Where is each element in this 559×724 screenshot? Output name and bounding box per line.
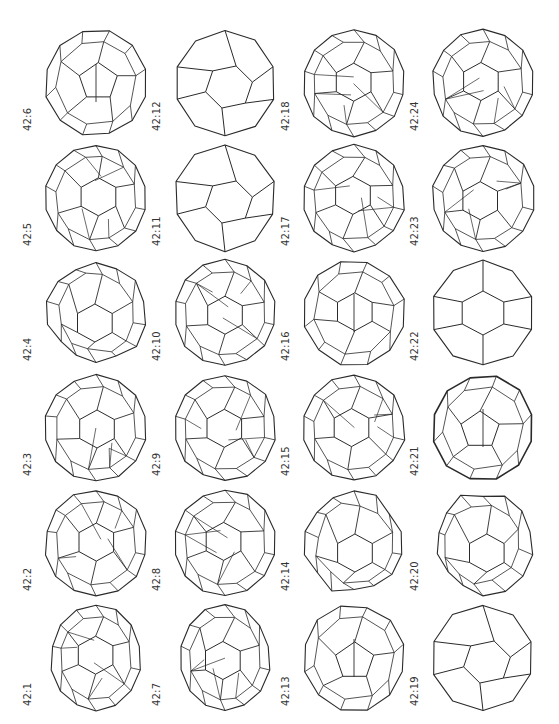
cage-edge — [315, 437, 335, 439]
cage-edge — [108, 539, 127, 570]
cage-edge — [480, 683, 483, 711]
cage-edge — [203, 496, 213, 503]
cage-edge — [194, 516, 207, 532]
polyhedron-wireframe — [296, 257, 412, 371]
cage-edge — [487, 505, 492, 534]
cage-edge — [343, 214, 353, 238]
polyhedron-label: 42:5 — [22, 223, 33, 246]
cage-edge — [186, 438, 207, 439]
cage-edge — [246, 440, 254, 458]
cage-edge — [454, 168, 463, 191]
cage-edge — [185, 326, 187, 347]
cage-edge — [512, 228, 523, 231]
cage-edge — [115, 511, 122, 529]
cage-edge — [108, 219, 109, 238]
polyhedron-panel: 42:14 — [280, 487, 408, 602]
cage-edge — [83, 124, 87, 135]
cage-edge — [68, 632, 94, 640]
cage-edge — [264, 394, 266, 416]
cage-edge — [195, 400, 207, 419]
polyhedron-panel: 42:17 — [280, 142, 408, 257]
polyhedron-label: 42:15 — [280, 446, 291, 476]
cage-edge — [88, 428, 96, 469]
cage-edge — [439, 533, 445, 535]
cage-edge — [125, 228, 136, 231]
cage-face — [464, 63, 499, 101]
cage-edge — [370, 185, 392, 186]
cage-edge — [318, 275, 319, 292]
cage-edge — [58, 206, 81, 213]
cage-edge — [65, 516, 79, 533]
polyhedron-panel: 42:1 — [22, 602, 150, 717]
cage-edge — [203, 265, 213, 273]
cage-face — [176, 145, 274, 252]
cage-edge — [355, 617, 363, 642]
cage-edge — [434, 642, 471, 646]
cage-edge — [185, 439, 186, 461]
cage-edge — [314, 165, 322, 172]
cage-edge — [126, 341, 136, 347]
cage-edge — [205, 610, 215, 618]
cage-edge — [503, 674, 530, 678]
cage-edge — [88, 678, 102, 699]
cage-edge — [176, 531, 186, 535]
cage-edge — [390, 332, 391, 351]
cage-edge — [129, 625, 131, 642]
cage-edge — [498, 210, 512, 228]
cage-face — [78, 636, 113, 674]
cage-edge — [236, 354, 247, 360]
cage-edge — [61, 62, 79, 76]
polyhedron-panel: 42:4 — [22, 257, 150, 372]
cage-edge — [218, 560, 224, 584]
cage-edge — [393, 50, 395, 71]
cage-edge — [74, 150, 86, 157]
cage-edge — [354, 491, 360, 506]
cage-edge — [326, 515, 338, 544]
cage-edge — [191, 660, 204, 671]
cage-edge — [314, 50, 323, 56]
cage-edge — [353, 157, 365, 176]
polyhedron-panel: 42:3 — [22, 372, 150, 487]
cage-edge — [56, 395, 67, 399]
cage-edge — [88, 674, 95, 699]
cage-edge — [352, 386, 361, 408]
polyhedron-wireframe — [167, 602, 283, 716]
cage-edge — [315, 92, 337, 94]
cage-face — [185, 502, 264, 584]
cage-face — [56, 156, 136, 239]
cage-face — [176, 259, 275, 365]
cage-edge — [264, 510, 265, 531]
polyhedron-label: 42:12 — [151, 101, 162, 131]
cage-edge — [323, 676, 343, 685]
cage-edge — [88, 342, 95, 349]
cage-edge — [237, 583, 247, 590]
cage-edge — [57, 213, 58, 230]
cage-face — [338, 293, 373, 331]
cage-face — [304, 491, 401, 591]
cage-edge — [354, 84, 384, 113]
cage-edge — [61, 647, 77, 648]
cage-edge — [444, 50, 452, 56]
cage-edge — [363, 608, 367, 617]
cage-edge — [444, 165, 455, 168]
cage-edge — [314, 94, 315, 117]
cage-edge — [369, 581, 374, 586]
cage-edge — [514, 390, 519, 401]
cage-edge — [305, 666, 314, 672]
cage-edge — [521, 50, 523, 69]
cage-edge — [497, 181, 521, 183]
cage-edge — [265, 323, 274, 325]
cage-edge — [74, 495, 82, 504]
cage-face — [470, 534, 505, 572]
cage-edge — [136, 553, 145, 555]
cage-edge — [181, 646, 190, 650]
cage-face — [177, 31, 273, 136]
polyhedron-label: 42:23 — [409, 216, 420, 246]
cage-edge — [461, 150, 470, 158]
cage-edge — [82, 209, 90, 240]
cage-edge — [257, 339, 264, 346]
polyhedron-panel: 42:7 — [151, 602, 279, 717]
cage-face — [461, 411, 499, 445]
cage-face — [181, 605, 270, 711]
polyhedron-wireframe — [38, 372, 154, 486]
